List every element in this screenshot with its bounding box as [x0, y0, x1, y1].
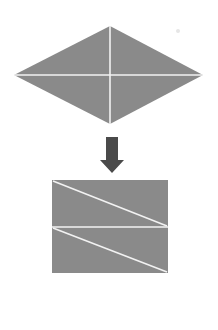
speck-mark	[176, 29, 180, 33]
diagram-canvas	[0, 0, 218, 330]
shape-transformation-figure	[0, 0, 218, 330]
rectangle-group	[52, 180, 168, 273]
